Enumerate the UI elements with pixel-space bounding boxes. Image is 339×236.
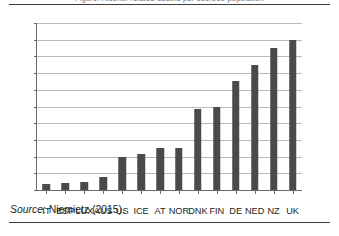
x-axis-tick-mark [65, 190, 66, 194]
source-label: Source [10, 204, 43, 215]
y-axis-tick-mark [34, 90, 38, 91]
y-axis-tick-mark [34, 56, 38, 57]
bar [137, 154, 145, 190]
bar [270, 48, 278, 190]
bar [194, 109, 202, 190]
gridline [37, 157, 302, 158]
y-axis-tick-mark [34, 190, 38, 191]
bar [213, 107, 221, 191]
gridline [37, 123, 302, 124]
x-axis-tick-mark [274, 190, 275, 194]
y-axis-tick-mark [34, 40, 38, 41]
x-axis-tick-mark [179, 190, 180, 194]
x-axis-tick-mark [141, 190, 142, 194]
gridline [37, 90, 302, 91]
x-axis-tick-label: UK [273, 206, 313, 216]
bar [156, 148, 164, 190]
bar [251, 65, 259, 190]
bar [289, 40, 297, 190]
bar-chart: 02468101214161820ITESPLUXAUSUSICEATNORDN… [0, 10, 339, 202]
x-axis-tick-mark [236, 190, 237, 194]
x-axis-tick-mark [255, 190, 256, 194]
x-axis-tick-mark [217, 190, 218, 194]
bar [62, 183, 70, 191]
x-axis-tick-mark [160, 190, 161, 194]
gridline [37, 40, 302, 41]
y-axis-tick-mark [34, 23, 38, 24]
gridline [37, 107, 302, 108]
y-axis-tick-mark [34, 73, 38, 74]
y-axis-tick-mark [34, 123, 38, 124]
figure-container: Figure: Alcohol-related deaths per 100,0… [0, 0, 339, 236]
x-axis-tick-mark [84, 190, 85, 194]
bar [118, 157, 126, 190]
figure-title-clipped: Figure: Alcohol-related deaths per 100,0… [9, 0, 330, 3]
source-citation: Niemietz (2015). [49, 204, 125, 215]
y-axis-tick-mark [34, 173, 38, 174]
top-divider-rule [9, 4, 330, 5]
gridline [37, 140, 302, 141]
x-axis-tick-mark [46, 190, 47, 194]
gridline [37, 56, 302, 57]
x-axis-tick-mark [103, 190, 104, 194]
source-note: Source: Niemietz (2015). [10, 203, 125, 216]
plot-area: 02468101214161820ITESPLUXAUSUSICEATNORDN… [36, 23, 302, 191]
y-axis-tick-mark [34, 107, 38, 108]
x-axis-tick-mark [293, 190, 294, 194]
bottom-divider-rule [9, 222, 330, 223]
gridline [37, 73, 302, 74]
x-axis-tick-mark [198, 190, 199, 194]
y-axis-tick-mark [34, 157, 38, 158]
bar [100, 177, 108, 190]
bar [81, 182, 89, 190]
x-axis-tick-mark [122, 190, 123, 194]
gridline [37, 23, 302, 24]
bar [175, 148, 183, 190]
bar [232, 81, 240, 190]
y-axis-tick-mark [34, 140, 38, 141]
gridline [37, 173, 302, 174]
